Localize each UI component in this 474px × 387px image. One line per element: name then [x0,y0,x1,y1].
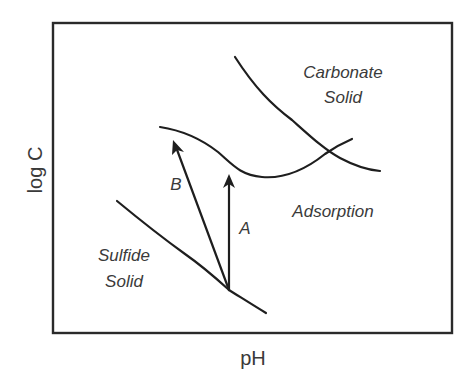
y-axis-label: log C [24,147,46,194]
carbonate-label-line2: Solid [324,88,362,107]
arrow-a-label: A [238,219,250,238]
adsorption-label: Adsorption [291,202,373,221]
adsorption-boundary-curve [160,127,352,177]
arrow-b-label: B [170,175,181,194]
carbonate-label-line1: Carbonate [303,63,382,82]
x-axis-label: pH [240,347,266,369]
diagram-canvas: Carbonate Solid Adsorption Sulfide Solid… [0,0,474,387]
sulfide-label-line1: Sulfide [98,246,150,265]
sulfide-label-line2: Solid [105,272,143,291]
